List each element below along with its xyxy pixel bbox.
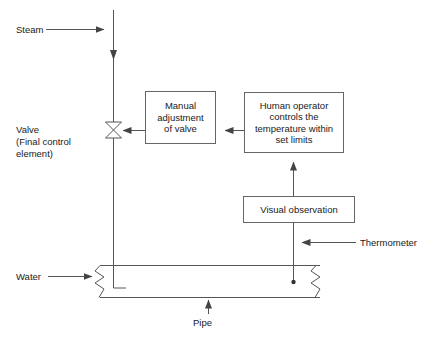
valve-bowtie-icon bbox=[106, 122, 122, 138]
probe-dot-icon bbox=[291, 280, 295, 284]
visual-observation-label: Visual observation bbox=[243, 196, 355, 223]
steam-flow-arrow-icon bbox=[110, 50, 117, 60]
human-operator-label: Human operator controls the temperature … bbox=[244, 92, 344, 153]
pipe-break-right-icon bbox=[311, 266, 320, 298]
pipe-break-left-icon bbox=[95, 266, 104, 298]
water-label: Water bbox=[16, 271, 41, 283]
manual-adjustment-label: Manual adjustment of valve bbox=[145, 91, 216, 144]
thermometer-label: Thermometer bbox=[360, 237, 417, 249]
pipe-body bbox=[100, 266, 320, 298]
process-control-diagram: Steam Valve (Final control element) Wate… bbox=[0, 0, 434, 341]
pipe-label: Pipe bbox=[193, 317, 212, 329]
valve-label: Valve (Final control element) bbox=[16, 124, 71, 160]
steam-label: Steam bbox=[16, 24, 43, 36]
thermometer-probe-line bbox=[291, 222, 295, 284]
diagram-canvas bbox=[0, 0, 434, 341]
